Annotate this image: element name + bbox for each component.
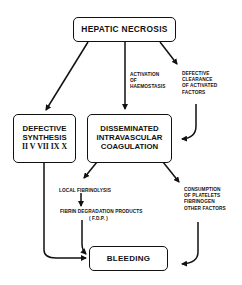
label-defective-clearance: DEFECTIVE CLEARANCE OF ACTIVATED FACTORS xyxy=(182,70,217,95)
label-fdp: FIBRIN DEGRADATION PRODUCTS xyxy=(60,208,143,214)
arrow-to-consumption xyxy=(163,162,179,182)
label-activation: ACTIVATION OF HAEMOSTASIS xyxy=(130,71,165,90)
node-hepatic-necrosis-label: HEPATIC NECROSIS xyxy=(81,25,167,35)
arrow-fdp-to-bleeding xyxy=(82,220,86,254)
label-local-fibrinolysis: LOCAL FIBRINOLYSIS xyxy=(59,187,111,193)
arrow-to-defective-synthesis xyxy=(46,42,88,110)
dic-line-3: COAGULATION xyxy=(101,143,158,152)
arrow-consumption-to-bleeding xyxy=(182,222,198,264)
arrow-clearance-to-dic xyxy=(182,104,196,139)
local-fibrinolysis-text: LOCAL FIBRINOLYSIS xyxy=(59,187,111,193)
label-clearance-line-3: OF ACTIVATED xyxy=(182,82,217,88)
node-bleeding-label: BLEEDING xyxy=(107,254,151,263)
node-bleeding: BLEEDING xyxy=(89,246,168,271)
consumption-line-4: OTHER FACTORS xyxy=(184,205,226,211)
arrow-to-fibrinolysis xyxy=(84,162,97,178)
fdp-abbrev-text: ( F.D.P. ) xyxy=(89,215,108,221)
label-fdp-abbrev: ( F.D.P. ) xyxy=(89,215,108,221)
node-defective-synthesis: DEFECTIVE SYNTHESIS II V VII IX X xyxy=(13,114,76,163)
arrow-to-clearance xyxy=(160,42,177,64)
label-consumption: CONSUMPTION OF PLATELETS FIBRINOGEN OTHE… xyxy=(184,186,226,211)
label-activation-line-3: HAEMOSTASIS xyxy=(130,83,165,89)
node-hepatic-necrosis: HEPATIC NECROSIS xyxy=(73,17,176,42)
label-clearance-line-4: FACTORS xyxy=(182,89,217,95)
fdp-text: FIBRIN DEGRADATION PRODUCTS xyxy=(60,208,143,214)
node-dic: DISSEMINATED INTRAVASCULAR COAGULATION xyxy=(87,114,172,163)
defective-synthesis-factors: II V VII IX X xyxy=(22,143,67,152)
